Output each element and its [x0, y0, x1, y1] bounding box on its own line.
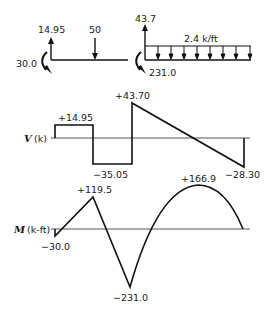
fbd-right-segment: 43.7 2.4 k/ft 231.0: [135, 13, 252, 78]
moment-label-m2: −231.0: [113, 292, 148, 303]
fbd-left-segment: 14.95 50 30.0: [16, 24, 128, 74]
moment-label-m0: −30.0: [41, 241, 70, 252]
shear-label-v2: −35.05: [93, 169, 128, 180]
shear-axis-unit: (k): [34, 133, 47, 144]
moment-curve: [55, 185, 243, 287]
moment-diagram: M (k-ft) −30.0 +119.5 −231.0 +166.9: [13, 173, 250, 303]
moment-axis-symbol: M: [13, 224, 26, 235]
right-reaction-label: 43.7: [135, 13, 156, 24]
left-reaction-label: 14.95: [38, 24, 65, 35]
shear-label-v3: +43.70: [115, 90, 150, 101]
distributed-load-label: 2.4 k/ft: [184, 33, 218, 44]
moment-label-m1: +119.5: [77, 184, 112, 195]
right-moment-label: 231.0: [149, 67, 176, 78]
point-load-label: 50: [89, 24, 101, 35]
moment-label-m3: +166.9: [181, 173, 216, 184]
shear-diagram: V (k) +14.95 −35.05 +43.70 −28.30: [24, 90, 260, 180]
shear-label-v4: −28.30: [225, 169, 260, 180]
point-load-arrow-down-icon: [92, 38, 98, 60]
left-moment-label: 30.0: [16, 58, 37, 69]
beam-diagrams: 14.95 50 30.0 43.7 2.4 k/ft: [0, 0, 271, 316]
moment-axis-unit: (k-ft): [27, 224, 50, 235]
reaction-arrow-up-icon: [48, 37, 54, 60]
reaction-arrow-up-icon: [142, 24, 148, 60]
shear-axis-symbol: V: [24, 133, 33, 144]
distributed-load-arrows-icon: [156, 46, 252, 59]
shear-label-v1: +14.95: [58, 112, 93, 123]
